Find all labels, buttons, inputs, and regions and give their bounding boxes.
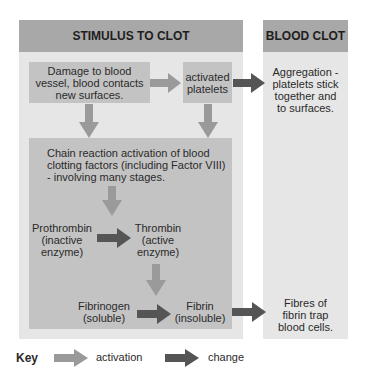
activation-arrow-down-icon xyxy=(102,186,122,216)
damage-text: Damage to blood vessel, blood contacts n… xyxy=(35,65,143,101)
change-key-arrow-icon xyxy=(165,349,199,367)
change-arrow-icon xyxy=(97,228,131,248)
activated-platelets-box: activated platelets xyxy=(183,62,232,103)
damage-box: Damage to blood vessel, blood contacts n… xyxy=(29,62,150,103)
aggregation-text: Aggregation - platelets stick together a… xyxy=(263,66,348,114)
blood-clot-header: BLOOD CLOT xyxy=(263,20,348,52)
activation-arrow-down-icon xyxy=(146,264,166,296)
prothrombin-label: Prothrombin (inactive enzyme) xyxy=(30,222,94,258)
activation-key-arrow-icon xyxy=(54,349,88,367)
change-arrow-icon xyxy=(232,302,266,322)
fibres-text: Fibres of fibrin trap blood cells. xyxy=(263,297,348,333)
key-activation-label: activation xyxy=(96,351,142,363)
stimulus-header: STIMULUS TO CLOT xyxy=(19,20,243,52)
thrombin-label: Thrombin (active enzyme) xyxy=(130,222,186,258)
fibrinogen-label: Fibrinogen (soluble) xyxy=(76,300,132,324)
activation-arrow-icon xyxy=(150,73,182,93)
activation-arrow-down-icon xyxy=(79,104,99,138)
change-arrow-icon xyxy=(233,73,265,93)
fibrin-label: Fibrin (insoluble) xyxy=(172,300,228,324)
chain-reaction-text: Chain reaction activation of blood clott… xyxy=(47,147,237,183)
key-label: Key xyxy=(16,351,38,365)
activation-arrow-down-icon xyxy=(198,104,218,138)
key-change-label: change xyxy=(208,351,244,363)
platelets-text: activated platelets xyxy=(185,71,229,95)
change-arrow-icon xyxy=(137,304,171,324)
